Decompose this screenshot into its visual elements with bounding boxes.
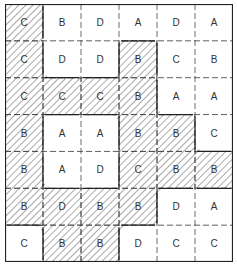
cell-label: D [96, 54, 103, 65]
cell-label: D [172, 201, 179, 212]
cell-label: B [21, 128, 28, 139]
cell-label: B [59, 17, 66, 28]
cell-label: D [58, 201, 65, 212]
cell-label: B [173, 128, 180, 139]
cell-label: C [58, 91, 65, 102]
cell-label: C [172, 54, 179, 65]
cell-label: A [211, 201, 218, 212]
cell-label: C [172, 238, 179, 249]
cell-label: B [173, 164, 180, 175]
cell-label: A [211, 17, 218, 28]
cell-label: A [59, 164, 66, 175]
cell-label: B [135, 54, 142, 65]
cell-label: A [135, 17, 142, 28]
cell-label: B [59, 238, 66, 249]
cell-label: D [96, 164, 103, 175]
cell-label: D [134, 238, 141, 249]
cell-label: C [210, 238, 217, 249]
cell-label: C [96, 91, 103, 102]
cell-label: B [21, 164, 28, 175]
cell-label: D [96, 17, 103, 28]
cell-label: A [59, 128, 66, 139]
cell-label: A [97, 128, 104, 139]
cell-label: B [97, 201, 104, 212]
cell-label: C [20, 91, 27, 102]
grid-canvas: CBDADACDDBCBCCCBAABAABBCBADCBBBDBBDACBBD… [5, 4, 233, 262]
cell-label: A [211, 91, 218, 102]
cell-label: C [20, 54, 27, 65]
cell-label: C [20, 238, 27, 249]
cell-label: D [172, 17, 179, 28]
cell-label: B [21, 201, 28, 212]
cell-label: D [58, 54, 65, 65]
letter-grid-diagram: CBDADACDDBCBCCCBAABAABBCBADCBBBDBBDACBBD… [5, 4, 233, 262]
cell-label: B [135, 201, 142, 212]
cell-label: B [211, 54, 218, 65]
cell-label: C [210, 128, 217, 139]
cell-label: A [173, 91, 180, 102]
cell-label: B [135, 91, 142, 102]
cell-label: B [97, 238, 104, 249]
cell-label: B [211, 164, 218, 175]
cell-label: C [134, 164, 141, 175]
cell-label: B [135, 128, 142, 139]
cell-label: C [20, 17, 27, 28]
